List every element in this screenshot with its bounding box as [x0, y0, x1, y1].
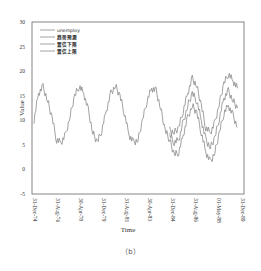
- y-tick-label: 10: [20, 117, 26, 123]
- x-tick-label: 31-Dec-89: [240, 198, 246, 222]
- y-tick-label: 30: [20, 19, 26, 25]
- x-tick-label: 31-Aug-81: [124, 198, 130, 222]
- series-line-0: [34, 83, 170, 144]
- x-tick-label: 30-Apr-83: [147, 198, 153, 221]
- x-tick-label: 31-Dec-84: [170, 198, 176, 222]
- x-tick-label: 31-Aug-86: [193, 198, 199, 222]
- y-tick-label: 15: [20, 93, 26, 99]
- x-tick-label: 31-Aug-76: [55, 198, 61, 222]
- y-tick-label: -5: [20, 191, 25, 197]
- x-tick-label: 30-Apr-78: [78, 198, 84, 221]
- y-tick-label: 5: [22, 142, 25, 148]
- legend-label-lower: 置信下限: [57, 41, 77, 48]
- y-tick-label: 0: [22, 166, 25, 172]
- y-tick-label: 20: [20, 68, 26, 74]
- x-axis-label: Time: [121, 226, 136, 234]
- legend-label-unemploy: unemploy: [57, 28, 80, 33]
- line-chart: -5051015202530 31-Dec-7431-Aug-7630-Apr-…: [0, 0, 261, 271]
- data-lines: [34, 73, 238, 161]
- legend-label-trend: 趋势预测: [57, 34, 77, 41]
- legend: unemploy 趋势预测 置信下限 置信上限: [40, 28, 80, 55]
- x-axis-ticks: 31-Dec-7431-Aug-7630-Apr-7831-Dec-7931-A…: [32, 198, 246, 223]
- series-line-3: [170, 73, 238, 134]
- x-tick-label: 31-Dec-79: [101, 198, 107, 222]
- figure-caption: （b）: [0, 246, 261, 256]
- x-tick-label: 31-Dec-74: [32, 198, 38, 222]
- y-tick-label: 25: [20, 44, 26, 50]
- x-tick-label: 01-May-88: [216, 198, 222, 223]
- y-axis-label: Value: [18, 100, 26, 116]
- legend-label-upper: 置信上限: [57, 48, 77, 55]
